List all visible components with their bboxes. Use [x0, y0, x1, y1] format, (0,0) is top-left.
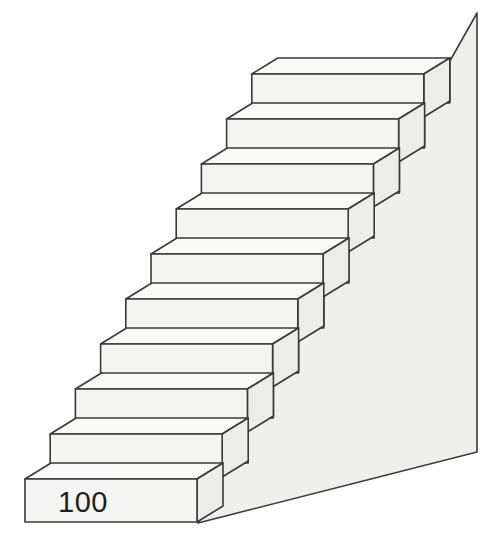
step-top-face: [126, 283, 324, 299]
step-top-face: [201, 148, 399, 164]
step-top-face: [151, 238, 349, 254]
step: [25, 463, 223, 522]
step-top-face: [101, 328, 299, 344]
step-top-face: [25, 463, 223, 479]
step-top-face: [75, 373, 273, 389]
bottom-step-label: 100: [58, 486, 108, 518]
step-top-face: [176, 193, 374, 209]
step-front-face: [25, 479, 197, 522]
staircase-illustration: 100: [0, 0, 501, 537]
step-top-face: [50, 418, 248, 434]
step-top-face: [252, 58, 450, 74]
step-top-face: [227, 103, 425, 119]
figure-canvas: 100: [0, 0, 501, 537]
